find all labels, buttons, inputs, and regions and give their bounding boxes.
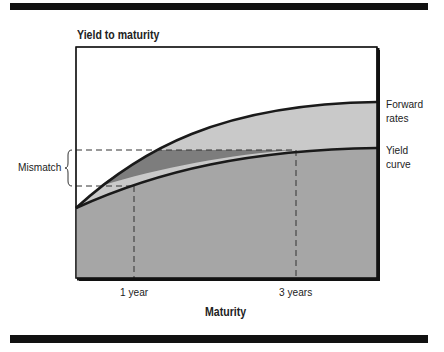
forward-rates-label-line2: rates xyxy=(386,112,409,124)
x-tick-1-year: 1 year xyxy=(120,286,148,298)
chart-area xyxy=(0,0,444,352)
x-tick-3-years: 3 years xyxy=(279,286,312,298)
yield-curve-label-line2: curve xyxy=(386,158,411,170)
x-axis-title: Maturity xyxy=(205,305,246,319)
mismatch-label: Mismatch xyxy=(18,161,61,173)
yield-curve-label-line1: Yield xyxy=(386,144,408,156)
mismatch-brace xyxy=(65,150,72,186)
forward-rates-label-line1: Forward xyxy=(386,98,423,110)
